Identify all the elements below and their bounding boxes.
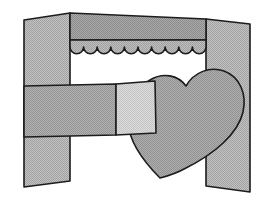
valance-group: [70, 13, 206, 54]
rail-light-segment: [116, 81, 156, 135]
illustration-svg: [0, 0, 272, 206]
rail-dark-segment: [24, 84, 116, 137]
rail-group: [24, 84, 116, 137]
illustration-canvas: [0, 0, 272, 206]
valance-band: [70, 13, 206, 40]
valance-scallop: [70, 40, 206, 54]
rail-front-group: [116, 81, 156, 135]
